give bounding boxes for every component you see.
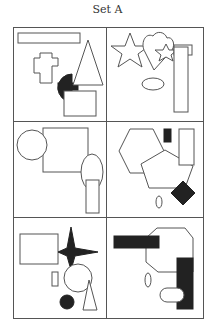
rounded-rect-shape <box>160 288 184 302</box>
small-bar-filled-shape <box>164 129 171 142</box>
small-rectangle-shape <box>52 272 58 286</box>
rectangle-shape <box>86 180 99 213</box>
cross-shape <box>34 53 58 83</box>
circle-shape <box>17 130 47 160</box>
panel-6 <box>114 228 193 309</box>
triangle-shape <box>73 40 103 85</box>
figure-grid <box>0 0 215 332</box>
rectangle-shape <box>20 234 58 264</box>
panel-4 <box>119 129 195 208</box>
star-shape <box>111 33 149 67</box>
panel-2 <box>111 32 192 112</box>
small-ellipse-shape <box>156 196 162 208</box>
panel-3 <box>17 128 103 213</box>
small-ellipse-shape <box>145 273 151 287</box>
panel-5 <box>20 227 98 310</box>
panel-1 <box>18 33 103 116</box>
rectangle-shape-2 <box>64 91 96 116</box>
tall-rectangle-shape <box>174 47 188 112</box>
horizontal-bar-filled-shape <box>114 236 159 248</box>
circle-filled-shape <box>60 295 74 309</box>
rectangle-shape <box>18 33 80 43</box>
rectangle-shape <box>179 129 194 165</box>
ellipse-shape <box>142 78 164 90</box>
